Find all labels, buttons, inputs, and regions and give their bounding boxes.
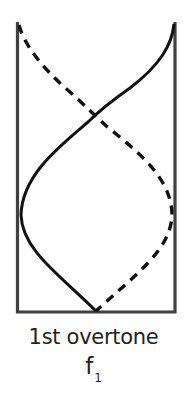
dashed-wave-curve — [19, 25, 172, 311]
frequency-symbol-subscript: 1 — [94, 371, 102, 385]
frequency-symbol-base: f — [85, 353, 93, 379]
standing-wave-diagram — [0, 0, 187, 320]
tube-svg — [0, 0, 187, 320]
mode-label: 1st overtone — [0, 324, 187, 350]
frequency-symbol: f1 — [0, 352, 187, 384]
